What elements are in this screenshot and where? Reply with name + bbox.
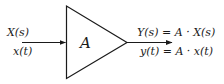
input-time-label: x(t) bbox=[13, 46, 32, 58]
gain-triangle bbox=[67, 6, 128, 79]
gain-label: A bbox=[80, 35, 91, 51]
output-laplace-equation: Y(s) = A · X(s) bbox=[137, 27, 215, 39]
gain-block-diagram: A X(s) x(t) Y(s) = A · X(s) y(t) = A · x… bbox=[0, 0, 224, 84]
input-laplace-label: X(s) bbox=[7, 27, 29, 39]
output-time-equation: y(t) = A · x(t) bbox=[140, 46, 213, 58]
